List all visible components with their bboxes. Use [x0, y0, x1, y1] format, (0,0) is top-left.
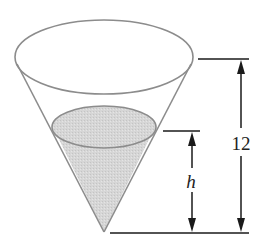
water-surface [52, 106, 156, 148]
arrow-down-icon [237, 218, 245, 232]
arrow-down-icon [188, 218, 196, 232]
cone-top-rim [15, 20, 193, 94]
cone-diagram: 12 h [0, 0, 266, 249]
water-height-label: h [186, 171, 196, 192]
arrow-up-icon [237, 60, 245, 74]
arrow-up-icon [188, 132, 196, 146]
water-volume [52, 106, 156, 232]
total-height-label: 12 [232, 133, 251, 154]
